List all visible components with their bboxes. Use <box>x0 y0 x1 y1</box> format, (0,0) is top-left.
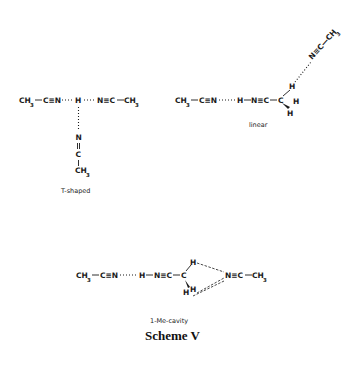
atom-h-down: H <box>287 109 293 118</box>
atom-nc-ch3-upper: N≡C—CH <box>307 28 339 62</box>
interaction-line <box>197 278 224 293</box>
atom-h-up: H <box>190 258 196 267</box>
svg-text:3: 3 <box>186 102 190 108</box>
atom-n-down: N <box>76 133 82 142</box>
atom-h-down-1: H <box>183 288 189 297</box>
atom-h-center: H <box>75 96 81 105</box>
structure-t-shaped: CH 3 C≡N H N≡C CH 3 N C CH 3 T-shaped <box>19 96 139 195</box>
atom-nc: N≡C <box>154 271 173 280</box>
atom-ch3-left: CH <box>76 271 88 280</box>
svg-text:3: 3 <box>87 277 91 283</box>
atom-ch3-right: CH <box>124 96 136 105</box>
svg-text:3: 3 <box>86 172 90 178</box>
caption-t-shaped: T-shaped <box>60 187 90 195</box>
structure-linear: CH 3 C≡N H N≡C C H H H N≡C—CH 3 linear <box>175 26 342 129</box>
atom-cn-left: C≡N <box>100 271 118 280</box>
svg-text:3: 3 <box>30 102 34 108</box>
scheme-diagram: CH 3 C≡N H N≡C CH 3 N C CH 3 T-shaped CH… <box>0 0 348 365</box>
atom-ch3-left: CH <box>19 96 31 105</box>
atom-c: C <box>181 271 187 280</box>
atom-ch3-right: CH <box>252 271 264 280</box>
atom-h: H <box>139 271 145 280</box>
atom-nc: N≡C <box>251 96 270 105</box>
caption-linear: linear <box>249 121 268 129</box>
atom-nc-right: N≡C <box>97 96 116 105</box>
hydrogen-bond-diagonal <box>295 62 311 82</box>
interaction-line <box>197 263 224 272</box>
atom-cn-left: C≡N <box>43 96 61 105</box>
atom-ch3-down: CH <box>75 166 87 175</box>
svg-text:3: 3 <box>135 102 139 108</box>
atom-ch3-left: CH <box>175 96 187 105</box>
structure-1-me-cavity: CH 3 C≡N H N≡C C H H H N≡C CH 3 1-Me-cav… <box>76 258 267 325</box>
atom-cn-left: C≡N <box>199 96 217 105</box>
atom-nc-right: N≡C <box>225 271 244 280</box>
interaction-line <box>193 281 224 296</box>
atom-c-down: C <box>76 150 82 159</box>
caption-1-me-cavity: 1-Me-cavity <box>150 317 188 325</box>
atom-h-down-2: H <box>190 285 196 294</box>
atom-h: H <box>237 96 243 105</box>
atom-h-up: H <box>289 82 295 91</box>
scheme-title: Scheme V <box>145 328 201 343</box>
atom-h-right: H <box>293 97 299 106</box>
svg-text:3: 3 <box>263 277 267 283</box>
